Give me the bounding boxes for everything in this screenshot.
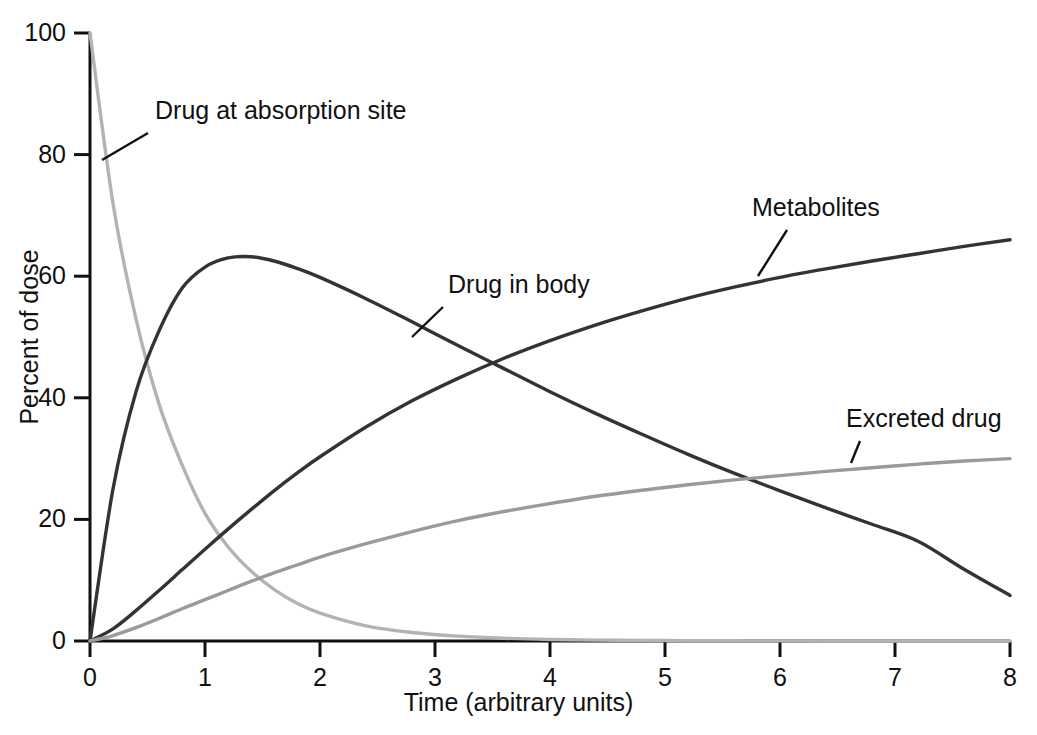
- y-axis-tick-label: 100: [24, 20, 66, 45]
- x-axis-tick-label: 4: [510, 665, 590, 690]
- x-axis-tick-label: 1: [165, 665, 245, 690]
- x-axis-tick-label: 5: [625, 665, 705, 690]
- y-axis-tick-label: 40: [38, 385, 66, 410]
- series-curve-2: [90, 240, 1010, 641]
- x-axis-tick-label: 3: [395, 665, 475, 690]
- y-axis-tick-label: 20: [38, 506, 66, 531]
- annotation-leader-lines: [102, 133, 860, 463]
- leader-line-3: [851, 441, 860, 463]
- series-curve-3: [90, 459, 1010, 641]
- x-axis-ticks: [90, 641, 1010, 657]
- x-axis-title: Time (arbitrary units): [0, 690, 1037, 715]
- y-axis-ticks: [74, 33, 90, 641]
- leader-line-0: [102, 133, 148, 160]
- y-axis-tick-label: 0: [52, 628, 66, 653]
- x-axis-tick-label: 8: [970, 665, 1037, 690]
- leader-line-2: [758, 230, 787, 276]
- y-axis-tick-label: 60: [38, 263, 66, 288]
- x-axis-tick-label: 2: [280, 665, 360, 690]
- series-curve-0: [90, 33, 1010, 641]
- x-axis-tick-label: 7: [855, 665, 935, 690]
- x-axis-tick-label: 0: [50, 665, 130, 690]
- data-series-group: [90, 33, 1010, 641]
- leader-line-1: [412, 307, 443, 337]
- series-curve-1: [90, 256, 1010, 641]
- series-label-2: Metabolites: [752, 195, 880, 220]
- pharmacokinetics-chart: Percent of dose 020406080100 012345678 D…: [0, 0, 1037, 735]
- axes: [90, 33, 1010, 641]
- y-axis-tick-label: 80: [38, 142, 66, 167]
- series-label-3: Excreted drug: [846, 406, 1002, 431]
- series-label-0: Drug at absorption site: [155, 98, 407, 123]
- series-label-1: Drug in body: [448, 272, 590, 297]
- x-axis-tick-label: 6: [740, 665, 820, 690]
